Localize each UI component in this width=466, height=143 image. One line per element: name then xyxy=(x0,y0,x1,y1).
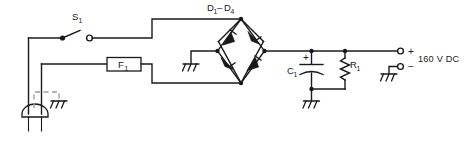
ground-filter xyxy=(303,87,345,108)
resistor-label-subscript: 1 xyxy=(357,65,361,72)
diode-label-to-subscript: 4 xyxy=(231,8,235,15)
ground-hatch-bridge-3 xyxy=(194,64,197,71)
cap-polarity-label: + xyxy=(303,52,309,63)
diode-d1 xyxy=(223,30,237,46)
switch-s1[interactable]: S 1 xyxy=(29,11,242,41)
ground-hatch-output-3 xyxy=(392,74,395,81)
output-minus-label: − xyxy=(408,61,414,72)
output-negative-branch: − xyxy=(381,61,415,81)
output-terminal-positive[interactable] xyxy=(398,48,404,54)
circuit-diagram: S 1 F 1 xyxy=(0,0,466,143)
fuse-label: F xyxy=(118,59,124,70)
bridge-edge-bottom-left xyxy=(219,42,242,84)
wire-switch-to-bridge-top xyxy=(92,19,241,38)
ground-hatch-output-2 xyxy=(386,74,389,81)
output-rating-label: 160 V DC xyxy=(418,54,460,64)
dc-output-rail: + xyxy=(265,46,415,57)
switch-label-subscript: 1 xyxy=(79,17,83,24)
ground-hatch-plug-1 xyxy=(51,101,54,108)
fuse-label-subscript: 1 xyxy=(125,65,129,72)
ground-hatch-filter-2 xyxy=(309,101,312,108)
bridge-rectifier: D 1 – D 4 xyxy=(207,2,267,85)
diode-label-dash: – xyxy=(217,2,223,13)
ground-hatch-output-1 xyxy=(381,74,384,81)
ground-hatch-plug-2 xyxy=(56,101,59,108)
ground-hatch-filter-3 xyxy=(314,101,317,108)
ground-hatch-bridge-1 xyxy=(183,64,186,71)
ground-hatch-filter-1 xyxy=(303,101,306,108)
resistor-r1: R 1 xyxy=(341,51,361,89)
plug-body xyxy=(22,104,48,117)
ground-hatch-bridge-2 xyxy=(188,64,191,71)
capacitor-c1: + C 1 xyxy=(287,51,323,89)
diode-d3-triangle xyxy=(221,58,234,70)
wire-bridge-left-to-ground xyxy=(191,51,218,63)
switch-contact-terminal[interactable] xyxy=(87,35,93,41)
diode-d2-triangle xyxy=(248,32,260,45)
capacitor-label-subscript: 1 xyxy=(294,71,298,78)
switch-label: S xyxy=(72,11,78,22)
output-terminal-negative[interactable] xyxy=(398,64,404,70)
switch-blade[interactable] xyxy=(63,31,81,39)
ac-plug xyxy=(22,38,48,131)
wire-negative-terminal xyxy=(389,67,398,74)
ground-bridge-left xyxy=(183,51,218,71)
output-plus-label: + xyxy=(408,46,414,57)
schematic-canvas: S 1 F 1 xyxy=(0,0,466,143)
bridge-arm-upper-right xyxy=(241,19,265,51)
ground-hatch-plug-3 xyxy=(62,101,65,108)
res-zigzag-body xyxy=(341,58,350,80)
fuse-f1: F 1 xyxy=(42,58,242,84)
